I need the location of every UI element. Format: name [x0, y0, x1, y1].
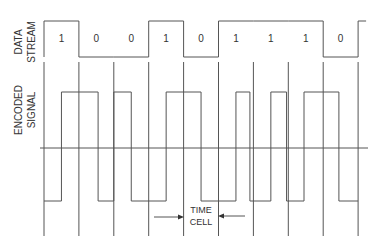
bit-label: 1	[163, 33, 169, 44]
encoded-signal-label: ENCODED SIGNAL	[13, 85, 37, 135]
data-stream-label-line1: DATA	[13, 29, 24, 55]
bit-label: 1	[59, 33, 65, 44]
encoded-signal-waveform	[44, 92, 358, 201]
encoded-signal-label-line2: SIGNAL	[26, 91, 37, 128]
time-cell-annotation: TIME CELL	[154, 205, 245, 227]
bit-label: 0	[198, 33, 204, 44]
bit-label: 0	[338, 33, 344, 44]
data-stream-label: DATA STREAM	[13, 21, 37, 63]
data-stream-label-line2: STREAM	[26, 21, 37, 63]
bit-label: 0	[94, 33, 100, 44]
bit-label: 1	[268, 33, 274, 44]
time-cell-label-line1: TIME	[190, 205, 212, 215]
time-cell-label-line2: CELL	[190, 217, 213, 227]
encoded-signal-label-line1: ENCODED	[13, 85, 24, 135]
bit-label: 0	[128, 33, 134, 44]
bit-label: 1	[303, 33, 309, 44]
data-stream-waveform	[44, 21, 366, 57]
data-stream-bits: 100101110	[59, 33, 344, 44]
encoding-diagram: DATA STREAM ENCODED SIGNAL 100101110 TIM…	[0, 0, 384, 249]
bit-label: 1	[233, 33, 239, 44]
